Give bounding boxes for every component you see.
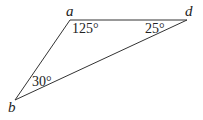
vertex-label-b: b [8, 99, 16, 115]
triangle-diagram: a d b 125° 25° 30° [0, 0, 203, 120]
angle-label-d: 25° [145, 21, 165, 36]
angle-label-b: 30° [32, 74, 52, 89]
angle-label-a: 125° [72, 21, 99, 36]
vertex-label-d: d [185, 3, 193, 19]
vertex-label-a: a [66, 3, 74, 19]
